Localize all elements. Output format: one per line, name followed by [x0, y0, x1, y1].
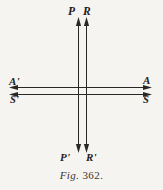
label-ray-R: R [83, 6, 91, 18]
label-ray-A: A [143, 75, 151, 86]
arrowhead-up-left [76, 17, 81, 26]
label-ray-R-prime: R' [86, 152, 97, 163]
label-ray-P: P [68, 6, 75, 18]
label-ray-A-prime: A' [9, 76, 20, 87]
label-ray-S: S [143, 95, 149, 106]
label-ray-S-prime: S' [10, 95, 19, 106]
arrowhead-down-left [76, 144, 81, 153]
caption-prefix: Fig. [60, 169, 80, 181]
label-ray-P-prime: P' [60, 152, 70, 163]
figure-caption: Fig. 362. [0, 169, 163, 181]
caption-number: 362. [82, 169, 103, 181]
optics-ray-figure: P R A' S' A S P' R' Fig. 362. [0, 0, 163, 190]
arrowhead-up-right [84, 17, 89, 26]
ray-diagram-svg [0, 0, 163, 190]
